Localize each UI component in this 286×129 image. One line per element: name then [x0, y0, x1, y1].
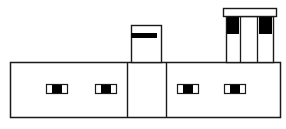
right-tower-black-panel-1 — [227, 16, 239, 34]
left-tower-outline — [132, 26, 162, 63]
right-tower-black-panel-2 — [259, 16, 272, 34]
right-tower — [224, 9, 277, 63]
window-4-black-pane — [230, 85, 240, 93]
right-tower-cap — [224, 9, 277, 17]
left-tower-black-bar — [131, 33, 157, 38]
window-3-black-pane — [183, 85, 193, 93]
window-1-black-pane — [52, 85, 62, 93]
left-tower — [131, 26, 162, 63]
building-elevation-diagram — [0, 0, 286, 129]
window-2-black-pane — [101, 85, 111, 93]
